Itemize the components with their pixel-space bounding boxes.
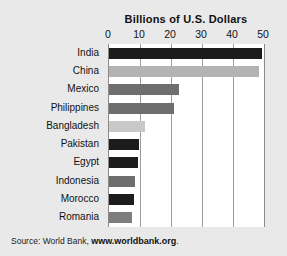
bar: [109, 176, 135, 187]
category-label: China: [0, 65, 104, 76]
bar: [109, 103, 174, 114]
plot-area: [108, 44, 265, 227]
x-axis-tick-labels: 01020304050: [0, 28, 287, 42]
bar: [109, 194, 134, 205]
bar: [109, 121, 145, 132]
x-tick-label: 50: [251, 28, 275, 40]
remittances-bar-chart-figure: Billions of U.S. Dollars 01020304050 Ind…: [0, 0, 287, 256]
bar: [109, 84, 179, 95]
category-label: Mexico: [0, 83, 104, 94]
category-label: Egypt: [0, 156, 104, 167]
x-tick-label: 0: [96, 28, 120, 40]
x-tick-label: 40: [220, 28, 244, 40]
bar: [109, 157, 138, 168]
category-label: Romania: [0, 211, 104, 222]
category-label: Bangladesh: [0, 120, 104, 131]
category-axis-labels: IndiaChinaMexicoPhilippinesBangladeshPak…: [0, 44, 104, 227]
source-url-link[interactable]: www.worldbank.org: [91, 236, 176, 246]
chart-title: Billions of U.S. Dollars: [108, 13, 264, 25]
source-note: Source: World Bank, www.worldbank.org.: [11, 236, 179, 246]
category-label: Pakistan: [0, 138, 104, 149]
category-label: Morocco: [0, 193, 104, 204]
bar: [109, 139, 139, 150]
category-label: Philippines: [0, 102, 104, 113]
bar-series: [109, 44, 264, 227]
x-tick-label: 10: [127, 28, 151, 40]
x-tick-label: 30: [189, 28, 213, 40]
x-tick-label: 20: [158, 28, 182, 40]
category-label: Indonesia: [0, 175, 104, 186]
bar: [109, 212, 132, 223]
bar: [109, 48, 262, 59]
category-label: India: [0, 47, 104, 58]
bar: [109, 66, 259, 77]
source-suffix: .: [176, 236, 178, 246]
source-prefix: Source: World Bank,: [11, 236, 89, 246]
